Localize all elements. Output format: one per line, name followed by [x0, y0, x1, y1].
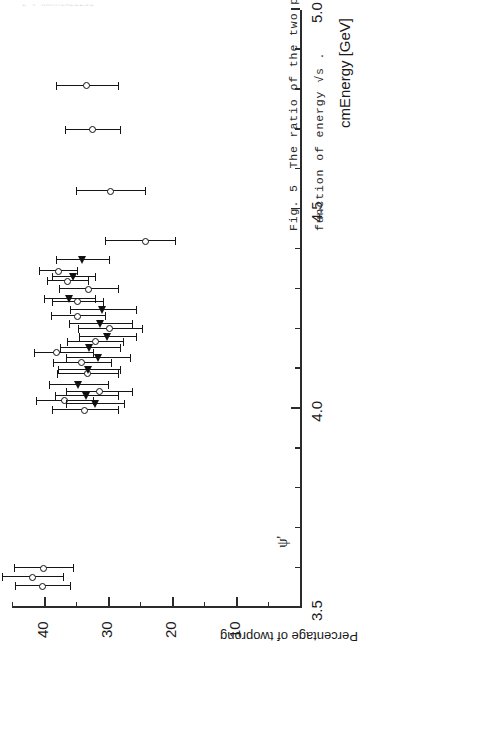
figure-caption: Fig. 5 The ratio of the two prong cross … — [281, 0, 333, 231]
x-tick-label: 3.5 — [308, 600, 325, 621]
y-tick-minor — [140, 602, 141, 608]
x-tick-minor — [295, 367, 300, 368]
error-bar-cap — [111, 359, 112, 367]
y-tick-major — [44, 597, 46, 608]
y-axis-title: Percentage of twoprong — [220, 629, 358, 644]
caption-line-2: function of energy √s . — [313, 52, 326, 231]
x-tick-minor — [295, 328, 300, 329]
data-point-circle — [74, 313, 81, 320]
x-tick-minor — [295, 248, 300, 249]
y-tick-major — [236, 597, 238, 608]
error-bar-cap — [70, 582, 71, 590]
error-bar-cap — [108, 381, 109, 389]
data-point-triangle — [94, 354, 102, 362]
y-tick-major — [172, 597, 174, 608]
error-bar-cap — [36, 397, 37, 405]
error-bar-cap — [136, 306, 137, 314]
y-tick-label: 40 — [34, 621, 51, 638]
error-bar-cap — [118, 82, 119, 90]
error-bar-cap — [69, 320, 70, 328]
error-bar-cap — [142, 325, 143, 333]
data-point-circle — [85, 286, 92, 293]
error-bar-cap — [118, 406, 119, 414]
x-tick-major — [291, 606, 300, 608]
error-bar-cap — [78, 325, 79, 333]
error-bar-cap — [132, 388, 133, 396]
data-point-triangle — [74, 381, 82, 389]
data-point-circle — [142, 238, 149, 245]
error-bar-cap — [63, 573, 64, 581]
data-point-circle — [106, 325, 113, 332]
data-point-circle — [107, 188, 114, 195]
error-bar-cap — [44, 295, 45, 303]
data-point-triangle — [98, 306, 106, 314]
error-bar-cap — [130, 354, 131, 362]
error-bar-cap — [52, 298, 53, 306]
data-point-triangle — [103, 333, 111, 341]
error-bar-cap — [15, 582, 16, 590]
error-bar-cap — [56, 82, 57, 90]
x-axis-title: cmEnergy [GeV] — [336, 18, 353, 128]
x-tick-major — [291, 407, 300, 409]
error-bar-cap — [118, 392, 119, 400]
data-point-triangle — [82, 392, 90, 400]
data-point-circle — [74, 298, 81, 305]
error-bar-cap — [66, 400, 67, 408]
data-point-triangle — [69, 273, 77, 281]
error-bar-cap — [76, 187, 77, 195]
x-tick-minor — [295, 527, 300, 528]
error-bar-cap — [95, 273, 96, 281]
error-bar-cap — [55, 392, 56, 400]
data-point-circle — [83, 82, 90, 89]
data-point-circle — [40, 565, 47, 572]
x-tick-minor — [295, 288, 300, 289]
y-tick-label: 20 — [162, 621, 179, 638]
error-bar-cap — [132, 320, 133, 328]
error-bar-cap — [39, 267, 40, 275]
error-bar-cap — [67, 338, 68, 346]
x-tick-minor — [295, 487, 300, 488]
error-bar-cap — [118, 285, 119, 293]
error-bar-cap — [88, 277, 89, 285]
data-point-circle — [29, 574, 36, 581]
error-bar-cap — [66, 354, 67, 362]
error-bar-cap — [120, 126, 121, 134]
error-bar-cap — [136, 333, 137, 341]
error-bar-cap — [47, 277, 48, 285]
error-bar — [34, 352, 93, 353]
caption-line-1: Fig. 5 The ratio of the two prong cross … — [287, 0, 300, 231]
error-bar-cap — [73, 564, 74, 572]
y-tick-minor — [12, 602, 13, 608]
x-tick-minor — [295, 447, 300, 448]
error-bar-cap — [120, 344, 121, 352]
data-point-triangle — [96, 320, 104, 328]
error-bar-cap — [53, 359, 54, 367]
error-bar-cap — [123, 338, 124, 346]
error-bar-cap — [59, 285, 60, 293]
error-bar-cap — [175, 237, 176, 245]
error-bar-cap — [2, 573, 3, 581]
error-bar-cap — [60, 344, 61, 352]
x-tick-label: 4.0 — [308, 401, 325, 422]
data-point-triangle — [84, 366, 92, 374]
error-bar-cap — [34, 349, 35, 357]
error-bar-cap — [77, 267, 78, 275]
error-bar-cap — [49, 381, 50, 389]
error-bar — [105, 240, 175, 241]
y-axis-line — [12, 606, 300, 608]
y-tick-label: 30 — [98, 621, 115, 638]
data-point-circle — [39, 583, 46, 590]
y-tick-minor — [268, 602, 269, 608]
error-bar-cap — [103, 298, 104, 306]
data-point-triangle — [85, 344, 93, 352]
data-point-triangle — [78, 256, 86, 264]
data-point-circle — [81, 407, 88, 414]
data-point-triangle — [91, 400, 99, 408]
error-bar-cap — [51, 312, 52, 320]
psi-prime-annotation: ψ' — [274, 536, 291, 548]
error-bar-cap — [56, 256, 57, 264]
y-tick-major — [108, 597, 110, 608]
error-bar-cap — [14, 564, 15, 572]
error-bar-cap — [95, 295, 96, 303]
error-bar-cap — [70, 306, 71, 314]
